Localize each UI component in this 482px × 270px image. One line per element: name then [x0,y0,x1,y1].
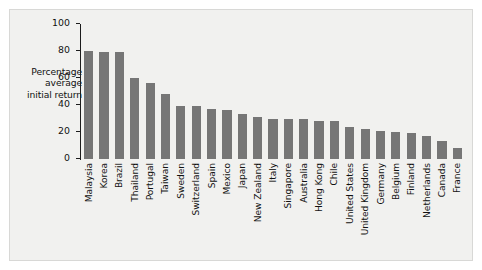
bar[interactable] [391,132,400,159]
x-axis-tick-label-slot: Brazil [112,161,127,253]
bar-column[interactable] [130,24,139,159]
bar[interactable] [422,136,431,159]
x-axis-tick-labels: MalaysiaKoreaBrazilThailandPortugalTaiwa… [81,161,465,253]
y-axis-tick: 40 [76,104,80,105]
x-axis-tick-label-slot: Italy [265,161,280,253]
bar-column[interactable] [407,24,416,159]
x-axis-tick-label-slot: Portugal [142,161,157,253]
x-axis-tick-label: Germany [376,163,386,204]
x-axis-tick-label: Spain [207,163,217,188]
bar-column[interactable] [284,24,293,159]
y-axis-tick-label: 100 [52,17,70,28]
bar[interactable] [453,148,462,159]
bar[interactable] [407,133,416,159]
bar[interactable] [345,127,354,159]
bar-column[interactable] [268,24,277,159]
bar-column[interactable] [376,24,385,159]
x-axis-tick-label: Korea [99,163,109,189]
x-axis-tick-label-slot: New Zealand [250,161,265,253]
x-axis-tick-label-slot: Netherlands [419,161,434,253]
x-axis-tick-label: Chile [329,163,339,186]
bar[interactable] [115,52,124,159]
bar-column[interactable] [422,24,431,159]
x-axis-tick-label: New Zealand [253,163,263,222]
bar-column[interactable] [330,24,339,159]
x-axis-tick-label-slot: Malaysia [81,161,96,253]
bar-column[interactable] [361,24,370,159]
bar[interactable] [176,106,185,159]
x-axis-tick-label: Hong Kong [314,163,324,212]
bar-column[interactable] [345,24,354,159]
y-axis-tick: 80 [76,50,80,51]
bar[interactable] [130,78,139,159]
x-axis-tick-label-slot: Australia [296,161,311,253]
x-axis-tick-label: Mexico [222,163,232,194]
x-axis-tick-label: United States [345,163,355,224]
x-axis-tick-label-slot: Finland [404,161,419,253]
bar[interactable] [376,131,385,159]
bar[interactable] [207,109,216,159]
bar[interactable] [84,51,93,159]
bar[interactable] [238,114,247,159]
bar-column[interactable] [99,24,108,159]
y-axis-tick-label: 60 [58,71,70,82]
x-axis-tick-label-slot: United Kingdom [357,161,372,253]
bar-column[interactable] [314,24,323,159]
bar-column[interactable] [391,24,400,159]
y-axis-label: Percentage average initial return [14,66,82,100]
bar-column[interactable] [192,24,201,159]
x-axis-tick-label: Japan [237,163,247,188]
bar-column[interactable] [453,24,462,159]
plot-area: 020406080100 [80,24,465,159]
x-axis-tick-label: Portugal [145,163,155,200]
y-axis-tick-label: 0 [64,152,70,163]
bar-column[interactable] [238,24,247,159]
bar-column[interactable] [146,24,155,159]
x-axis-tick-label-slot: Korea [96,161,111,253]
bar[interactable] [330,121,339,159]
bar[interactable] [268,119,277,160]
y-axis-tick: 0 [76,158,80,159]
x-axis-tick-label: Singapore [283,163,293,208]
bar-column[interactable] [84,24,93,159]
bar[interactable] [437,141,446,159]
y-axis-tick: 100 [76,23,80,24]
x-axis-tick-label: Brazil [114,163,124,188]
x-axis-tick-label-slot: Switzerland [189,161,204,253]
bar-column[interactable] [222,24,231,159]
bar[interactable] [222,110,231,159]
x-axis-tick-label-slot: Germany [373,161,388,253]
x-axis-tick-label: United Kingdom [360,163,370,235]
x-axis-tick-label-slot: Taiwan [158,161,173,253]
bar-column[interactable] [176,24,185,159]
bar[interactable] [192,106,201,159]
x-axis-tick-label: Italy [268,163,278,182]
bar-column[interactable] [115,24,124,159]
bar[interactable] [299,119,308,160]
x-axis-tick-label-slot: Sweden [173,161,188,253]
bar-column[interactable] [437,24,446,159]
x-axis-tick-label: Taiwan [160,163,170,194]
x-axis-tick-label: Thailand [130,163,140,202]
bar[interactable] [146,83,155,159]
x-axis-tick-label-slot: Belgium [388,161,403,253]
bar[interactable] [284,119,293,160]
bar-column[interactable] [299,24,308,159]
x-axis-tick-label-slot: Canada [434,161,449,253]
bar-column[interactable] [207,24,216,159]
x-axis-tick-label: Sweden [176,163,186,199]
bar[interactable] [361,129,370,159]
x-axis-tick-label: Australia [299,163,309,203]
bar-column[interactable] [161,24,170,159]
bar[interactable] [253,117,262,159]
bar[interactable] [161,94,170,159]
bar[interactable] [314,121,323,159]
x-axis-tick-label: Finland [406,163,416,195]
x-axis-tick-label: Belgium [391,163,401,200]
bar-column[interactable] [253,24,262,159]
y-axis-label-line-3: initial return [14,89,82,100]
x-axis-tick-label: France [452,163,462,193]
x-axis-tick-label: Canada [437,163,447,197]
bar[interactable] [99,52,108,159]
x-axis-tick-label-slot: Hong Kong [311,161,326,253]
